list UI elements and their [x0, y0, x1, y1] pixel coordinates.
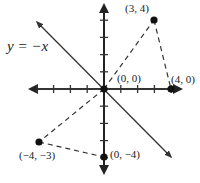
label-origin: (0, 0)	[117, 72, 141, 85]
point-3-4	[150, 16, 157, 23]
point-neg4-neg3	[35, 138, 42, 145]
point-origin	[100, 85, 107, 92]
label-neg4-neg3: (−4, −3)	[19, 149, 56, 162]
coordinate-plane-diagram: y = −x (0, 0) (3, 4) (4, 0) (−4, −3) (0,…	[0, 0, 200, 183]
line-label: y = −x	[5, 38, 48, 54]
label-4-0: (4, 0)	[171, 73, 195, 86]
label-3-4: (3, 4)	[125, 2, 149, 15]
point-0-neg4	[100, 153, 107, 160]
point-4-0	[167, 85, 174, 92]
dashed-triangle-image	[39, 89, 104, 157]
label-0-neg4: (0, −4)	[110, 148, 140, 161]
diagram-canvas: y = −x (0, 0) (3, 4) (4, 0) (−4, −3) (0,…	[0, 0, 200, 183]
